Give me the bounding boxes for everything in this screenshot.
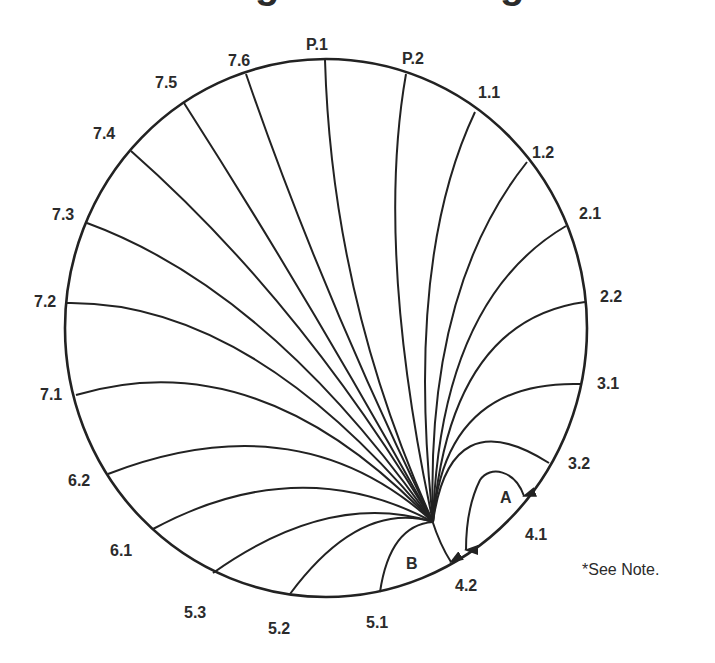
main-arrow-to-4-2 [432,520,451,562]
rim-label-P-2: P.2 [402,50,424,67]
cut-off-title: g g [255,0,524,6]
rim-label-3-2: 3.2 [568,455,590,472]
rim-label-7-1: 7.1 [40,386,62,403]
rim-label-6-1: 6.1 [110,542,132,559]
rim-label-4-1: 4.1 [525,526,547,543]
title-fragment-1: g [255,0,279,6]
see-note-text: *See Note. [582,561,659,578]
rim-label-4-2: 4.2 [455,577,477,594]
region-label-a: A [500,489,512,506]
rim-label-7-4: 7.4 [93,125,115,142]
rim-label-5-2: 5.2 [268,620,290,637]
rim-label-2-2: 2.2 [600,288,622,305]
rim-label-2-1: 2.1 [579,205,601,222]
rim-label-3-1: 3.1 [597,375,619,392]
rim-label-5-3: 5.3 [184,604,206,621]
line-from-7-2 [66,303,433,522]
title-fragment-2: g [500,0,524,6]
rim-label-P-1: P.1 [306,36,328,53]
line-from-1-2 [432,162,527,522]
arc-a-double-arrow [466,472,524,550]
rim-label-6-2: 6.2 [68,472,90,489]
rim-label-7-3: 7.3 [52,206,74,223]
line-from-5-3 [213,513,433,573]
rim-label-1-1: 1.1 [478,84,500,101]
line-from-7-4 [131,151,433,522]
rim-label-7-2: 7.2 [34,293,56,310]
converging-lines [66,60,585,594]
rim-label-7-6: 7.6 [228,52,250,69]
line-from-2-1 [433,226,566,522]
region-label-b: B [406,555,418,572]
line-from-7-3 [87,223,433,522]
rim-label-5-1: 5.1 [366,614,388,631]
line-from-P-1 [325,60,433,522]
rim-label-7-5: 7.5 [155,74,177,91]
rim-label-1-2: 1.2 [532,144,554,161]
line-from-6-1 [153,488,433,529]
outer-circle [65,59,587,597]
converging-diagram: g g P.1P.21.11.22.12.23.13.24.14.25.15.2… [0,0,715,663]
